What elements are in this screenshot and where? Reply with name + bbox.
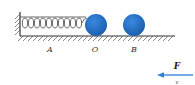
point-label-b: B (131, 46, 137, 54)
ball-b (123, 14, 145, 36)
point-label-a: A (47, 46, 53, 54)
force-arrow (157, 72, 193, 78)
point-label-o: O (92, 46, 99, 54)
wall (15, 12, 20, 36)
ground-surface (18, 36, 175, 41)
ground-hatching (18, 36, 173, 41)
force-label: F (174, 62, 180, 71)
spring (20, 17, 87, 28)
spring-mass-diagram: A O B F v (0, 0, 195, 85)
ball-o (85, 14, 107, 36)
velocity-label: v (175, 79, 178, 85)
diagram-canvas (0, 0, 195, 85)
